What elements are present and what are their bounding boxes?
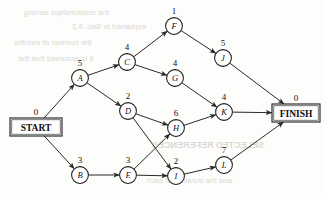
node-label-a: A (76, 73, 83, 83)
activity-node-k[interactable]: K4 (216, 92, 233, 120)
edge-j-to-finish (230, 63, 284, 104)
node-label-g: G (172, 73, 178, 83)
node-label-b: B (77, 170, 82, 180)
activity-node-g[interactable]: G4 (167, 58, 184, 86)
edge-start-to-b (44, 136, 74, 169)
activity-node-j[interactable]: J5 (215, 38, 232, 66)
node-label-c: C (124, 57, 130, 67)
edges-group (44, 31, 284, 176)
finish-label: FINISH (280, 109, 313, 119)
node-duration-a: 5 (78, 58, 83, 68)
edge-k-to-finish (232, 112, 272, 113)
start-duration: 0 (34, 107, 39, 117)
node-duration-h: 6 (174, 108, 179, 118)
edge-g-to-k (182, 83, 217, 107)
nodes-group: A5B3C4D2E3F1G4H6I2J5K4L7 (72, 6, 233, 184)
activity-node-i[interactable]: I2 (168, 156, 185, 184)
edge-i-to-l (184, 167, 216, 174)
edge-e-to-h (134, 134, 170, 169)
edge-f-to-j (181, 31, 216, 54)
edge-a-to-d (87, 83, 121, 106)
node-duration-l: 7 (222, 145, 227, 155)
finish-duration: 0 (294, 93, 299, 103)
activity-node-e[interactable]: E3 (120, 155, 137, 183)
activity-node-l[interactable]: L7 (216, 145, 233, 173)
project-network-diagram: the relationships among explained in Sec… (0, 0, 325, 198)
activity-node-d[interactable]: D2 (120, 91, 137, 119)
finish-terminal: FINISH 0 (272, 93, 320, 122)
node-label-f: F (170, 21, 177, 31)
edge-d-to-h (136, 114, 168, 125)
start-terminal: START 0 (10, 107, 62, 136)
node-duration-e: 3 (126, 155, 131, 165)
activity-node-a[interactable]: A5 (72, 58, 89, 86)
edge-a-to-c (88, 65, 119, 76)
node-label-l: L (221, 160, 227, 170)
node-duration-i: 2 (174, 156, 179, 166)
node-label-e: E (124, 170, 131, 180)
edge-c-to-g (135, 65, 167, 76)
node-duration-j: 5 (221, 38, 226, 48)
edge-l-to-finish (231, 122, 284, 160)
node-duration-d: 2 (126, 91, 131, 101)
activity-node-b[interactable]: B3 (72, 155, 89, 183)
node-duration-g: 4 (173, 58, 178, 68)
node-duration-c: 4 (125, 42, 130, 52)
network-canvas: A5B3C4D2E3F1G4H6I2J5K4L7 START 0 FINISH … (0, 0, 325, 198)
node-duration-b: 3 (78, 155, 83, 165)
node-label-h: H (172, 123, 180, 133)
activity-node-f[interactable]: F1 (166, 6, 183, 34)
edge-c-to-f (134, 31, 168, 57)
edge-start-to-a (44, 84, 74, 118)
start-label: START (21, 123, 52, 133)
node-duration-k: 4 (222, 92, 227, 102)
activity-node-c[interactable]: C4 (119, 42, 136, 70)
activity-node-h[interactable]: H6 (168, 108, 185, 136)
edge-d-to-i (133, 118, 171, 169)
edge-e-to-i (136, 175, 167, 176)
edge-h-to-k (184, 115, 216, 126)
node-label-d: D (124, 106, 132, 116)
node-duration-f: 1 (172, 6, 177, 16)
